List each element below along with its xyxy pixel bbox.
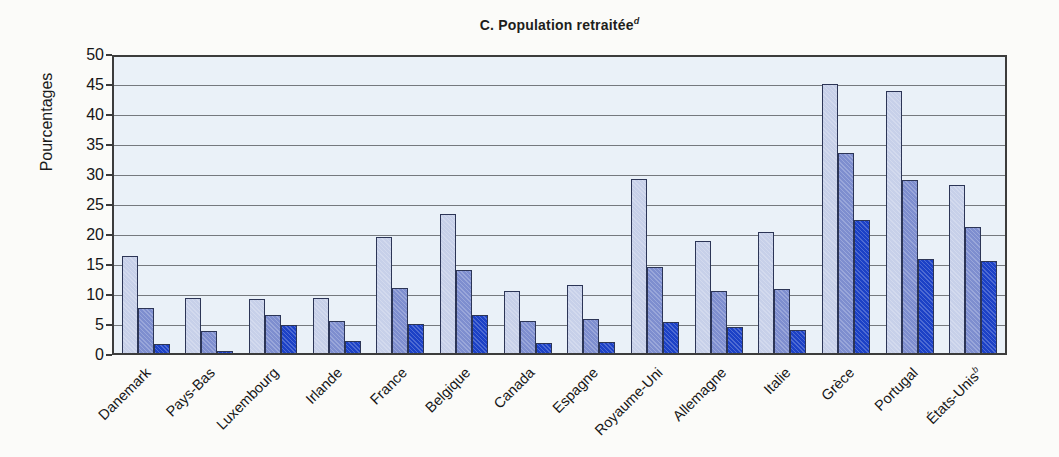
ytick-label-50: 50 [64,47,104,63]
medium-blue-bar-Belgique [456,270,472,353]
bar-group-Grèce [814,84,878,353]
medium-blue-bar-Pays-Bas [201,331,217,353]
ytick-label-10: 10 [64,287,104,303]
dark-blue-bar-Espagne [599,342,615,353]
ytick-label-30: 30 [64,167,104,183]
xlabel-Italie: Italie [760,363,794,397]
xlabel-cell: Allemagne [687,357,751,452]
medium-blue-bar-États-Unis [965,227,981,353]
xlabel-Canada: Canada [490,363,539,412]
medium-blue-bar-Allemagne [711,291,727,353]
medium-blue-bar-Portugal [902,180,918,353]
xlabel-Grèce: Grèce [818,363,859,404]
bar-group-Espagne [559,285,623,353]
ytick-label-5: 5 [64,317,104,333]
xlabel-cell: Grèce [815,357,879,452]
light-blue-bar-Danemark [122,256,138,353]
ytick-mark-5 [106,324,112,326]
bar-group-Canada [496,291,560,353]
ytick-label-0: 0 [64,347,104,363]
x-axis-labels: DanemarkPays-BasLuxembourgIrlandeFranceB… [112,357,1007,452]
y-axis-label-text: Pourcentages [38,73,56,172]
light-blue-bar-Belgique [440,214,456,353]
xlabel-cell: États-Unisb [943,357,1007,452]
ytick-label-25: 25 [64,197,104,213]
xlabel-cell: Irlande [304,357,368,452]
medium-blue-bar-Italie [774,289,790,353]
xlabel-cell: Italie [751,357,815,452]
xlabel-France: France [366,363,411,408]
scanned-chart-page: C. Population retraitéed Pourcentages 05… [0,0,1059,457]
chart-title: C. Population retraitéed [112,16,1007,33]
bar-group-Pays-Bas [178,298,242,353]
medium-blue-bar-Espagne [583,319,599,353]
bar-group-Portugal [878,91,942,353]
light-blue-bar-Allemagne [695,241,711,353]
chart-title-footnote-marker: d [634,16,640,26]
xlabel-Portugal: Portugal [871,363,922,414]
xlabel-Irlande: Irlande [303,363,347,407]
dark-blue-bar-Allemagne [727,327,743,353]
medium-blue-bar-France [392,288,408,353]
bar-group-Danemark [114,256,178,353]
dark-blue-bar-France [408,324,424,353]
dark-blue-bar-Luxembourg [281,325,297,353]
light-blue-bar-Luxembourg [249,299,265,353]
plot-area [112,55,1007,355]
ytick-mark-40 [106,114,112,116]
light-blue-bar-États-Unis [949,185,965,353]
bar-group-Italie [750,232,814,353]
dark-blue-bar-Italie [790,330,806,353]
dark-blue-bar-Royaume-Uni [663,322,679,353]
ytick-mark-10 [106,294,112,296]
bar-group-France [369,237,433,353]
medium-blue-bar-Luxembourg [265,315,281,353]
light-blue-bar-Canada [504,291,520,353]
ytick-mark-35 [106,144,112,146]
light-blue-bar-Royaume-Uni [631,179,647,353]
ytick-label-15: 15 [64,257,104,273]
xlabel-cell: Belgique [432,357,496,452]
chart-title-text: C. Population retraitée [480,17,634,33]
light-blue-bar-Espagne [567,285,583,353]
dark-blue-bar-Canada [536,343,552,353]
ytick-label-45: 45 [64,77,104,93]
dark-blue-bar-Irlande [345,341,361,353]
light-blue-bar-Grèce [822,84,838,353]
ytick-mark-15 [106,264,112,266]
medium-blue-bar-Grèce [838,153,854,353]
light-blue-bar-Pays-Bas [185,298,201,353]
bar-group-Allemagne [687,241,751,353]
light-blue-bar-Portugal [886,91,902,353]
ytick-mark-50 [106,54,112,56]
ytick-label-35: 35 [64,137,104,153]
bar-group-Royaume-Uni [623,179,687,353]
ytick-mark-0 [106,354,112,356]
ytick-mark-30 [106,174,112,176]
ytick-mark-45 [106,84,112,86]
bar-group-Luxembourg [241,299,305,353]
xlabel-cell: Luxembourg [240,357,304,452]
medium-blue-bar-Canada [520,321,536,353]
bar-group-Belgique [432,214,496,353]
dark-blue-bar-Danemark [154,344,170,353]
xlabel-Danemark: Danemark [95,363,155,423]
bars-layer [114,57,1005,353]
medium-blue-bar-Danemark [138,308,154,353]
ytick-label-40: 40 [64,107,104,123]
ytick-label-20: 20 [64,227,104,243]
medium-blue-bar-Royaume-Uni [647,267,663,353]
dark-blue-bar-Pays-Bas [217,351,233,353]
light-blue-bar-Italie [758,232,774,353]
bar-group-Irlande [305,298,369,353]
dark-blue-bar-Grèce [854,220,870,353]
medium-blue-bar-Irlande [329,321,345,353]
dark-blue-bar-Portugal [918,259,934,353]
ytick-mark-20 [106,234,112,236]
light-blue-bar-Irlande [313,298,329,353]
dark-blue-bar-Belgique [472,315,488,353]
bar-group-États-Unis [941,185,1005,353]
ytick-mark-25 [106,204,112,206]
dark-blue-bar-États-Unis [981,261,997,353]
light-blue-bar-France [376,237,392,353]
